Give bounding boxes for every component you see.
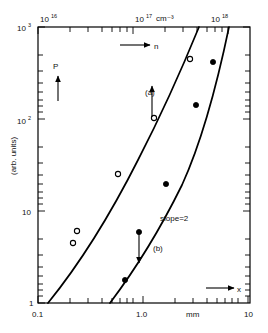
left-tick-label-1e2: 10 [17, 117, 26, 126]
left-tick-label-1e3: 10 [17, 24, 26, 33]
left-axis-labels: 10 3 10 2 10 1 (arb. units) [9, 22, 34, 308]
curve-a-label: (a) [145, 88, 155, 97]
bottom-axis-labels: 0.1 1.0 10 mm [32, 310, 253, 319]
top-tick-exp-18: 18 [222, 13, 228, 19]
left-tick-label-10: 10 [22, 208, 31, 217]
x-axis-units-label: mm [186, 310, 200, 319]
scientific-plot: 10 16 10 17 10 18 cm⁻³ 10 3 10 2 10 1 (a… [0, 0, 268, 333]
right-axis-ticks [243, 27, 250, 296]
y-axis-units-label: (arb. units) [9, 136, 18, 175]
figure-container: 10 16 10 17 10 18 cm⁻³ 10 3 10 2 10 1 (a… [0, 0, 268, 333]
data-point-a-1 [70, 240, 75, 245]
left-tick-label-1: 1 [29, 299, 34, 308]
left-tick-exp-2: 2 [28, 115, 31, 121]
slope-annotation: slope=2 [160, 214, 189, 223]
x-axis-symbol: x [237, 285, 241, 294]
top-tick-label-1e17: 10 [135, 15, 144, 24]
n-axis-symbol: n [154, 42, 158, 51]
data-point-b-3 [163, 181, 168, 186]
top-axis-ticks [38, 27, 228, 34]
p-axis-symbol: P [53, 62, 58, 71]
data-point-a-3 [115, 171, 120, 176]
plot-frame [38, 27, 250, 303]
x-tick-label-0p1: 0.1 [32, 310, 44, 319]
top-tick-exp-16: 16 [51, 13, 57, 19]
data-point-b-4 [193, 102, 198, 107]
data-point-b-1 [122, 277, 127, 282]
top-tick-exp-17: 17 [146, 13, 152, 19]
x-tick-label-10: 10 [244, 310, 253, 319]
top-axis-units: cm⁻³ [156, 14, 174, 23]
bottom-axis-ticks [38, 296, 248, 303]
top-tick-label-1e18: 10 [211, 15, 220, 24]
data-point-b-5 [210, 59, 215, 64]
curve-a-line [48, 27, 199, 303]
top-tick-label-1e16: 10 [40, 15, 49, 24]
data-point-a-2 [74, 228, 79, 233]
curve-b-points [122, 59, 215, 282]
top-axis-labels: 10 16 10 17 10 18 cm⁻³ [40, 13, 228, 24]
left-tick-exp-3: 3 [28, 22, 31, 28]
curve-b-label: (b) [153, 244, 163, 253]
left-axis-ticks [38, 27, 45, 303]
x-tick-label-1p0: 1.0 [136, 310, 148, 319]
n-axis-arrow-group: n [120, 42, 158, 51]
p-axis-arrow-group: P [53, 62, 58, 101]
data-point-a-5 [187, 56, 192, 61]
x-axis-arrow-group: x [206, 285, 241, 294]
curve-b-line [110, 27, 229, 303]
